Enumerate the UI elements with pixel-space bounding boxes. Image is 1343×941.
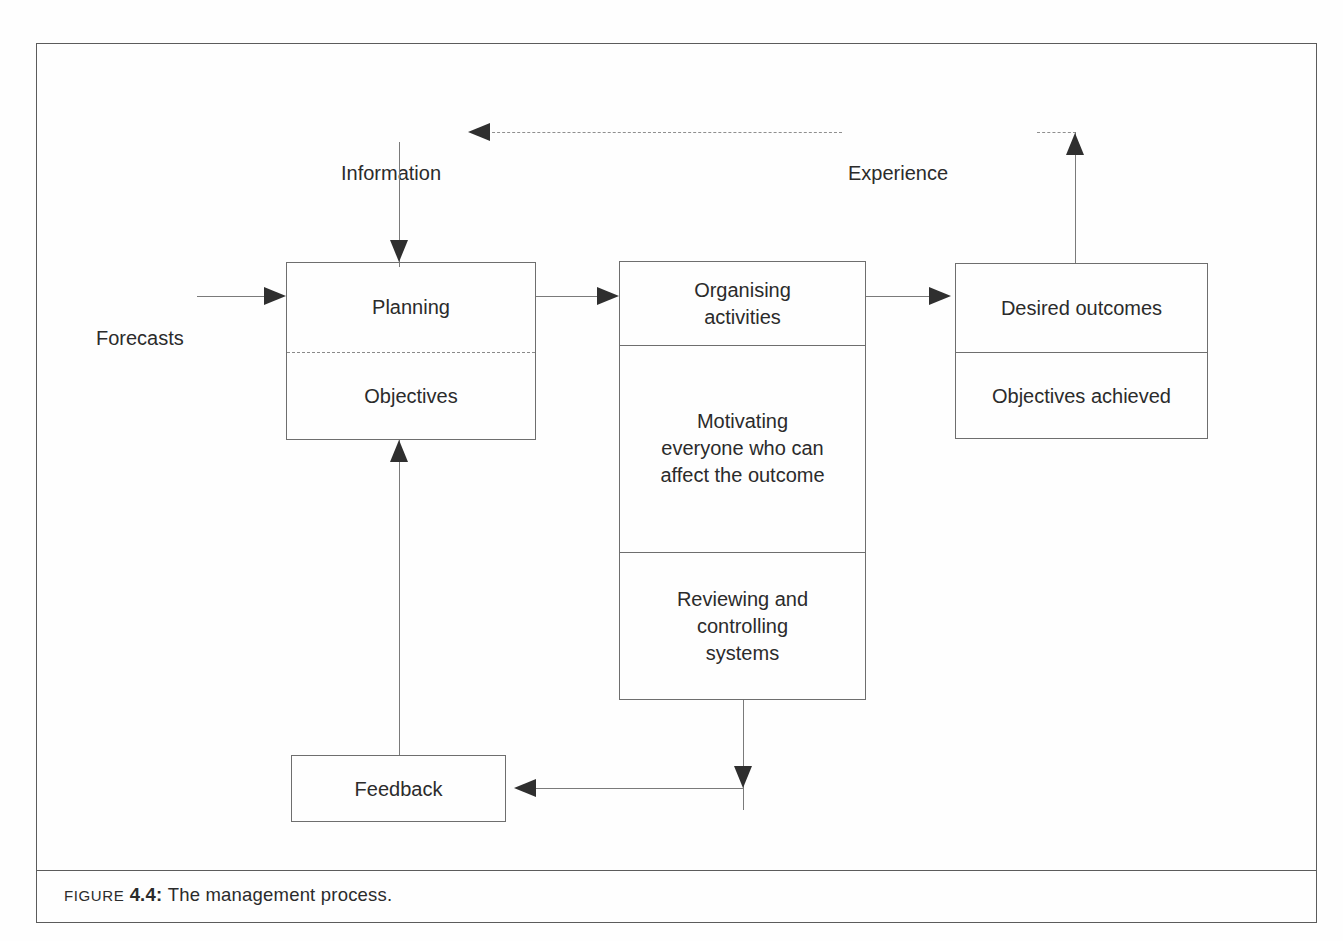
connector-planning-to-organising <box>536 296 602 297</box>
box-planning-cell-objectives: Objectives <box>287 352 535 441</box>
connector-organising-to-feedback-horizontal <box>527 788 744 789</box>
figure-frame: Forecasts Information Experience Plannin… <box>36 43 1317 923</box>
box-planning-cell-planning: Planning <box>287 263 535 352</box>
label-experience: Experience <box>848 162 948 185</box>
arrowhead-feedback-to-planning <box>390 440 408 462</box>
box-feedback-cell-feedback: Feedback <box>292 756 505 823</box>
arrowhead-forecasts-to-planning <box>264 287 286 305</box>
arrowhead-outcomes-to-experience <box>1066 133 1084 155</box>
caption-number: 4.4: <box>130 884 163 905</box>
arrowhead-into-feedback <box>514 779 536 797</box>
figure-page: Forecasts Information Experience Plannin… <box>0 0 1343 941</box>
box-organising[interactable]: Organising activities Motivating everyon… <box>619 261 866 700</box>
figure-caption: FIGURE 4.4: The management process. <box>64 884 392 906</box>
label-forecasts: Forecasts <box>96 327 184 350</box>
arrowhead-experience-to-information <box>468 123 490 141</box>
arrowhead-planning-to-organising <box>597 287 619 305</box>
connector-organising-to-outcomes <box>866 296 934 297</box>
box-feedback[interactable]: Feedback <box>291 755 506 822</box>
label-information: Information <box>341 162 441 185</box>
box-outcomes-cell-objectives-achieved: Objectives achieved <box>956 352 1207 440</box>
box-organising-cell-organising-activities: Organising activities <box>620 262 865 345</box>
caption-prefix: FIGURE <box>64 887 124 904</box>
box-outcomes[interactable]: Desired outcomes Objectives achieved <box>955 263 1208 439</box>
arrowhead-information-to-planning <box>390 240 408 262</box>
connector-organising-to-feedback-vertical <box>743 700 744 810</box>
connector-experience-to-information-left <box>482 132 842 133</box>
box-planning[interactable]: Planning Objectives <box>286 262 536 440</box>
caption-text: The management process. <box>168 884 393 905</box>
arrowhead-organising-to-outcomes <box>929 287 951 305</box>
box-outcomes-cell-desired-outcomes: Desired outcomes <box>956 264 1207 352</box>
connector-feedback-to-planning <box>399 440 400 755</box>
box-organising-cell-reviewing: Reviewing and controlling systems <box>620 552 865 701</box>
caption-rule <box>36 870 1317 871</box>
arrowhead-organising-to-feedback <box>734 766 752 788</box>
box-organising-cell-motivating: Motivating everyone who can affect the o… <box>620 345 865 552</box>
